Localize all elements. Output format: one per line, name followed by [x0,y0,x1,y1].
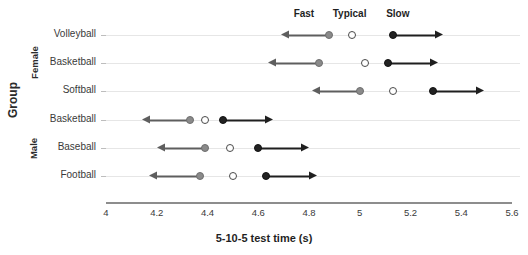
slow-marker [254,144,262,152]
y-axis-tick [101,35,106,36]
fast-arrow [157,144,205,153]
fast-marker [325,31,333,39]
legend-label-fast: Fast [294,8,315,19]
typical-marker [226,144,234,152]
fast-arrow [142,116,190,125]
x-axis-tick-label: 4.6 [252,207,265,218]
y-axis-tick [101,63,106,64]
group-label-female: Female [26,20,42,104]
fast-arrow [312,87,360,96]
x-axis-tick-label: 4 [103,207,108,218]
slow-arrow [266,172,317,181]
fast-marker [315,59,323,67]
legend-label-slow: Slow [386,8,409,19]
chart-canvas: Group Female Male VolleyballBasketballSo… [0,0,528,255]
fast-marker [186,116,194,124]
x-axis-tick-label: 5.4 [455,207,468,218]
y-axis-label-text: Basketball [50,113,96,124]
x-axis-tick-label: 5.2 [404,207,417,218]
x-axis-tick-label: 5.6 [505,207,518,218]
group-label-male: Male [26,106,42,190]
y-axis-tick [101,91,106,92]
fast-marker [196,172,204,180]
fast-arrow [149,172,200,181]
y-axis-label-text: Softball [63,84,96,95]
y-axis-label-text: Basketball [50,56,96,67]
y-axis-label-text: Volleyball [54,28,96,39]
y-axis-title-label: Group [6,82,20,118]
group-label-male-text: Male [29,137,40,158]
x-axis-tick-label: 5 [357,207,362,218]
typical-marker [361,59,369,67]
slow-marker [384,59,392,67]
y-axis-label-text: Football [60,169,96,180]
typical-marker [229,172,237,180]
x-axis-tick-label: 4.4 [201,207,214,218]
slow-marker [389,31,397,39]
fast-marker [356,87,364,95]
typical-marker [201,116,209,124]
x-axis-tick-label: 4.2 [150,207,163,218]
slow-marker [429,87,437,95]
slow-arrow [393,31,444,40]
fast-marker [201,144,209,152]
slow-arrow [258,144,309,153]
y-axis-label-text: Baseball [58,141,96,152]
x-axis-line [106,202,512,204]
slow-marker [262,172,270,180]
fast-arrow [281,31,329,40]
slow-arrow [223,116,274,125]
fast-arrow [268,59,319,68]
y-axis-title: Group [4,0,22,200]
slow-marker [219,116,227,124]
slow-arrow [388,59,439,68]
x-axis-tick-label: 4.8 [302,207,315,218]
slow-arrow [433,87,484,96]
group-label-female-text: Female [29,46,40,79]
x-axis-title: 5-10-5 test time (s) [0,232,528,244]
typical-marker [389,87,397,95]
y-axis-tick [101,120,106,121]
legend-label-typical: Typical [333,8,367,19]
typical-marker [348,31,356,39]
y-axis-tick [101,176,106,177]
y-axis-tick [101,148,106,149]
